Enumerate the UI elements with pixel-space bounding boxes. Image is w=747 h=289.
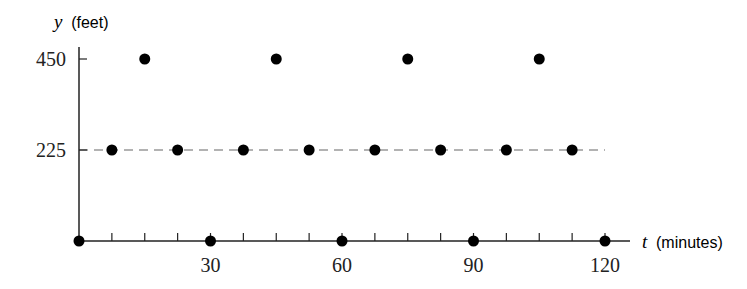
- y-axis-unit: (feet): [71, 14, 108, 31]
- y-tick-label: 450: [36, 48, 66, 70]
- data-point: [139, 54, 150, 65]
- data-point: [106, 145, 117, 156]
- data-point: [600, 236, 611, 247]
- data-point: [402, 54, 413, 65]
- data-point: [337, 236, 348, 247]
- data-point: [435, 145, 446, 156]
- y-ticks: [79, 59, 87, 150]
- x-ticks: [112, 233, 605, 241]
- data-point: [501, 145, 512, 156]
- x-tick-label: 30: [201, 254, 221, 276]
- x-axis-var: t: [642, 231, 648, 252]
- x-tick-label: 60: [332, 254, 352, 276]
- x-tick-label: 120: [590, 254, 620, 276]
- data-point: [534, 54, 545, 65]
- y-axis-var: y: [52, 11, 63, 32]
- x-axis-label: t (minutes): [642, 231, 723, 252]
- x-tick-labels: 306090120: [201, 254, 621, 276]
- y-tick-label: 225: [36, 139, 66, 161]
- data-point: [238, 145, 249, 156]
- data-point: [567, 145, 578, 156]
- axes: [79, 47, 630, 241]
- data-point: [74, 236, 85, 247]
- data-point: [304, 145, 315, 156]
- data-point: [468, 236, 479, 247]
- data-point: [369, 145, 380, 156]
- y-tick-labels: 225450: [36, 48, 66, 161]
- data-point: [205, 236, 216, 247]
- x-tick-label: 90: [464, 254, 484, 276]
- scatter-chart: 306090120 225450 y (feet) t (minutes): [0, 0, 747, 289]
- x-axis-unit: (minutes): [656, 234, 723, 251]
- y-axis-label: y (feet): [52, 11, 109, 32]
- data-point: [172, 145, 183, 156]
- data-point: [271, 54, 282, 65]
